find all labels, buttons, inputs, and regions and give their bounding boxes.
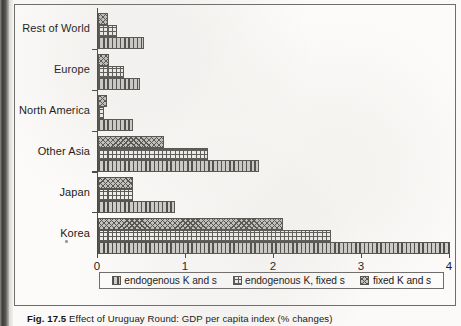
bar	[98, 160, 259, 172]
y-axis-category-label: North America	[19, 104, 90, 116]
legend-label: fixed K and s	[373, 275, 431, 286]
legend-label: endogenous K and s	[124, 275, 217, 286]
chart-legend: endogenous K and sendogenous K, fixed sf…	[99, 272, 444, 289]
x-axis-tick-label: 2	[270, 260, 276, 272]
y-axis-tick-mark	[92, 49, 97, 50]
scan-artifact-left-edge	[0, 0, 9, 326]
y-axis-category-label: Rest of World	[22, 22, 90, 34]
bar	[98, 107, 104, 119]
y-axis-tick-mark	[92, 212, 97, 213]
y-axis-category-label: Japan	[60, 186, 90, 198]
bar	[98, 25, 117, 37]
x-axis-tick-mark	[361, 253, 362, 258]
bar	[98, 66, 124, 78]
bar	[98, 78, 140, 90]
x-axis-tick-mark	[97, 253, 98, 258]
chart-plot-area: 01234 Rest of WorldEuropeNorth AmericaOt…	[97, 8, 449, 253]
y-axis-category-label: Korea	[60, 227, 90, 239]
y-axis-tick-mark	[92, 90, 97, 91]
x-axis-tick-label: 0	[94, 260, 100, 272]
bar	[98, 201, 175, 213]
bar-group	[98, 95, 450, 131]
x-axis-tick-mark	[185, 253, 186, 258]
bar	[98, 230, 331, 242]
x-axis-tick-label: 1	[182, 260, 188, 272]
y-axis-category-label: Other Asia	[38, 145, 90, 157]
y-axis-tick-mark	[92, 171, 97, 172]
bar	[98, 13, 108, 25]
bar-group	[98, 218, 450, 254]
bar	[98, 242, 450, 254]
bar-group	[98, 136, 450, 172]
legend-label: endogenous K, fixed s	[245, 275, 345, 286]
figure-container: 01234 Rest of WorldEuropeNorth AmericaOt…	[13, 0, 461, 326]
bar	[98, 54, 109, 66]
legend-item: endogenous K, fixed s	[233, 275, 345, 286]
y-axis-tick-mark	[92, 131, 97, 132]
bar	[98, 148, 208, 160]
figure-caption: Fig. 17.5 Effect of Uruguay Round: GDP p…	[27, 313, 457, 324]
legend-swatch-icon	[233, 276, 242, 285]
y-axis-category-label: Europe	[54, 63, 90, 75]
bar	[98, 218, 283, 230]
scan-speck	[65, 240, 68, 243]
x-axis-tick-mark	[449, 253, 450, 258]
x-axis-tick-label: 3	[358, 260, 364, 272]
x-axis-tick-label: 4	[446, 260, 452, 272]
legend-swatch-icon	[360, 276, 369, 285]
bar-group	[98, 177, 450, 213]
bar	[98, 177, 133, 189]
bar-group	[98, 54, 450, 90]
caption-text: Effect of Uruguay Round: GDP per capita …	[69, 313, 332, 324]
x-axis-tick-mark	[273, 253, 274, 258]
legend-item: endogenous K and s	[112, 275, 217, 286]
bar	[98, 37, 144, 49]
bar	[98, 95, 107, 107]
bar	[98, 136, 164, 148]
legend-item: fixed K and s	[360, 275, 431, 286]
bar	[98, 189, 133, 201]
bar-group	[98, 13, 450, 49]
legend-swatch-icon	[112, 276, 121, 285]
caption-label: Fig. 17.5	[27, 313, 66, 324]
bar	[98, 119, 133, 131]
